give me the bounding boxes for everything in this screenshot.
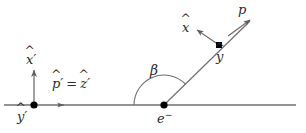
x-hat-hat: ^ <box>181 13 191 25</box>
label-p-hat: ^p <box>238 3 246 16</box>
p-hat-arrow <box>228 20 250 36</box>
y-prime-hat: ^ <box>16 102 26 114</box>
p-prime-hat: ^ <box>51 69 61 81</box>
label-p-prime-equals-z-prime: ^p′=^z′ <box>52 77 90 90</box>
label-y-hat: ^y <box>216 50 223 63</box>
electron-charge-sign: − <box>165 109 173 120</box>
label-x-hat: ^x <box>182 21 189 34</box>
x-prime-hat: ^ <box>25 45 35 57</box>
label-y-prime: ^y′ <box>17 110 27 123</box>
electron-base: e <box>157 111 165 126</box>
y-hat-hat: ^ <box>215 42 225 54</box>
p-hat-hat: ^ <box>237 0 247 8</box>
y-prime-origin-dot <box>30 101 37 108</box>
electron-vertex-dot <box>160 101 167 108</box>
beta-angle-arc <box>134 75 186 105</box>
label-electron: e− <box>157 110 173 125</box>
physics-diagram: ^x′ ^y′ ^p′=^z′ β e− ^x ^p ^y <box>0 0 306 133</box>
z-prime-hat: ^ <box>78 69 88 81</box>
scattered-momentum-line <box>164 21 250 105</box>
label-x-prime: ^x′ <box>26 53 36 66</box>
label-beta-angle: β <box>150 63 158 77</box>
